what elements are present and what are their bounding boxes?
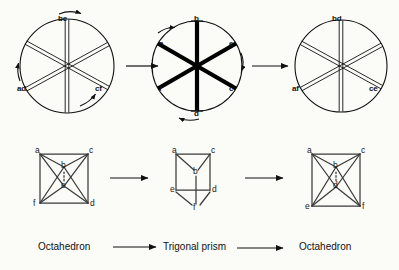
label-layer: be ad cf b a e f c d bd af ce a c b e f … [0,0,399,270]
circle-1-label-bottom-left: ad [17,85,26,93]
caption-left: Octahedron [38,242,90,252]
circle-3-label-top: bd [332,15,341,23]
caption-middle: Trigonal prism [163,242,226,252]
circle-1-label-top: be [58,15,67,23]
poly-2-vertex-d: d [212,185,217,194]
poly-1-vertex-c: c [89,146,93,155]
poly-2-vertex-a: a [172,146,177,155]
poly-1-vertex-b: b [61,161,66,170]
poly-3-vertex-f: f [362,202,364,211]
caption-right: Octahedron [299,242,351,252]
poly-1-vertex-a: a [35,146,40,155]
poly-1-vertex-d: d [90,199,95,208]
circle-2-label-upper-left: a [159,40,163,48]
circle-2-label-lower-right: c [229,85,233,93]
circle-2-label-upper-right: e [229,40,233,48]
poly-2-vertex-c: c [211,146,215,155]
poly-3-vertex-b: b [333,161,338,170]
poly-2-vertex-f: f [193,203,195,212]
poly-2-vertex-b: b [193,167,198,176]
circle-2-label-top: b [194,15,199,23]
circle-3-label-bottom-right: ce [369,85,378,93]
poly-3-vertex-e: e [305,202,310,211]
poly-3-vertex-d: d [333,181,338,190]
poly-3-vertex-c: c [361,146,365,155]
circle-3-label-bottom-left: af [292,85,299,93]
poly-3-vertex-a: a [307,146,312,155]
circle-1-label-bottom-right: cf [95,85,102,93]
poly-2-vertex-e: e [170,185,175,194]
poly-1-vertex-e: e [61,181,66,190]
circle-2-label-bottom: d [194,110,199,118]
bailar-twist-figure: be ad cf b a e f c d bd af ce a c b e f … [0,0,399,270]
circle-2-label-lower-left: f [159,85,161,93]
poly-1-vertex-f: f [33,199,35,208]
